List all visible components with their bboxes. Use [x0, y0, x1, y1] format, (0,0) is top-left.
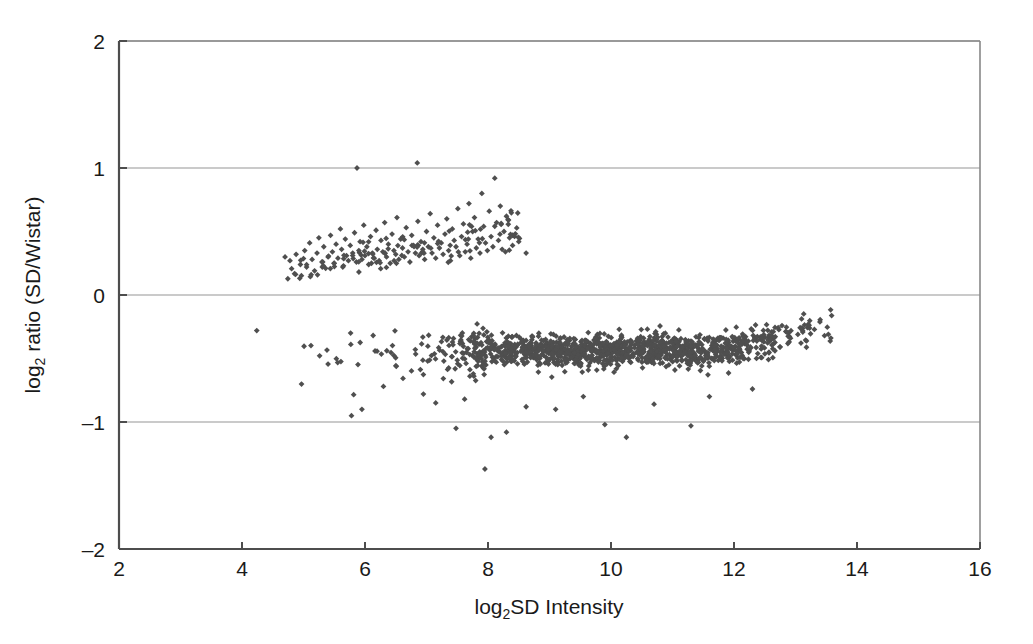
x-tick-label-8: 8 — [482, 557, 494, 580]
x-axis-title-subscript: 2 — [503, 606, 511, 622]
y-axis-title-subscript: 2 — [32, 357, 48, 365]
y-tick-label-2: 2 — [93, 30, 105, 53]
x-tick-label-16: 16 — [968, 557, 991, 580]
x-tick-label-12: 12 — [722, 557, 745, 580]
x-tick-label-2: 2 — [113, 557, 125, 580]
x-tick-label-4: 4 — [236, 557, 248, 580]
x-axis-title-main: SD Intensity — [510, 595, 624, 618]
y-tick-label--2: –2 — [82, 538, 105, 561]
y-tick-label-0: 0 — [93, 284, 105, 307]
x-tick-label-10: 10 — [599, 557, 622, 580]
x-axis-title-prefix: log — [474, 595, 502, 618]
x-tick-label-6: 6 — [359, 557, 371, 580]
x-axis-title: log2SD Intensity — [474, 595, 624, 622]
y-tick-label-1: 1 — [93, 157, 105, 180]
scatter-plot: 246810121416 210–1–2 log2SD Intensity lo… — [0, 0, 1033, 644]
plot-background — [0, 0, 1033, 644]
y-tick-label--1: –1 — [82, 411, 105, 434]
x-tick-label-14: 14 — [845, 557, 869, 580]
y-axis-title-main: ratio (SD/Wistar) — [21, 197, 44, 358]
figure-container: 246810121416 210–1–2 log2SD Intensity lo… — [0, 0, 1033, 644]
y-axis-title-prefix: log — [21, 365, 44, 393]
